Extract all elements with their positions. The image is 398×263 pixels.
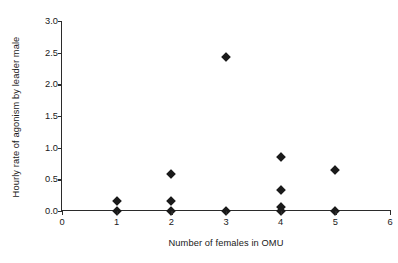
x-tick-label: 5 [333, 217, 338, 227]
y-tick-label: 0.5 [45, 174, 58, 184]
plot-area: 0.00.51.01.52.02.53.0 [62, 21, 390, 211]
x-tick-mark [62, 211, 63, 215]
y-tick-mark [58, 148, 62, 149]
y-tick-label: 2.5 [45, 48, 58, 58]
x-tick-mark [117, 211, 118, 215]
x-tick-label: 1 [114, 217, 119, 227]
x-tick-label: 4 [278, 217, 283, 227]
x-tick-mark [226, 211, 227, 215]
x-tick-label: 0 [59, 217, 64, 227]
data-point [330, 166, 340, 176]
data-point [276, 152, 286, 162]
x-tick-mark [335, 211, 336, 215]
y-tick-mark [58, 116, 62, 117]
y-axis-title: Hourly rate of agonism by leader male [8, 1, 24, 233]
x-tick-mark [281, 211, 282, 215]
y-tick-mark [58, 53, 62, 54]
y-tick-label: 0.0 [45, 206, 58, 216]
y-tick-mark [58, 179, 62, 180]
x-axis-title: Number of females in OMU [62, 238, 390, 248]
y-tick-label: 2.0 [45, 79, 58, 89]
x-tick-label: 2 [169, 217, 174, 227]
y-tick-label: 1.5 [45, 111, 58, 121]
data-point [166, 196, 176, 206]
y-tick-label: 3.0 [45, 16, 58, 26]
scatter-chart-figure: Hourly rate of agonism by leader male 0.… [0, 0, 398, 263]
x-tick-label: 3 [223, 217, 228, 227]
x-tick-mark [171, 211, 172, 215]
data-point [276, 185, 286, 195]
data-point [112, 196, 122, 206]
x-tick-mark [390, 211, 391, 215]
x-tick-label: 6 [387, 217, 392, 227]
y-tick-label: 1.0 [45, 143, 58, 153]
data-point [221, 52, 231, 62]
data-point [166, 169, 176, 179]
y-tick-mark [58, 84, 62, 85]
y-tick-mark [58, 21, 62, 22]
